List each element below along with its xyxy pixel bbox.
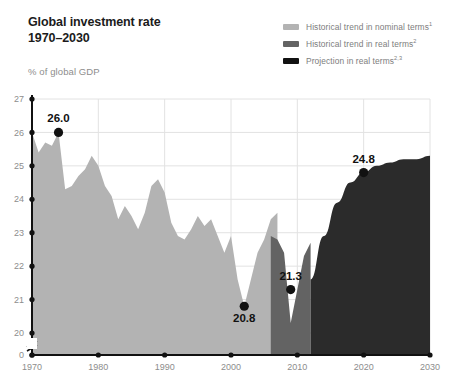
y-tick-label-22: 22 xyxy=(14,261,24,271)
x-tick-label-1980: 1980 xyxy=(88,362,108,372)
x-tick-dot-1970 xyxy=(29,352,34,357)
data-label-21.3: 21.3 xyxy=(280,270,302,282)
x-tick-dot-2000 xyxy=(228,352,233,357)
data-point-26.0 xyxy=(54,128,63,137)
data-point-21.3 xyxy=(286,285,295,294)
x-tick-dot-2030 xyxy=(427,352,432,357)
data-point-20.8 xyxy=(240,302,249,311)
chart-plot-area: 02021222324252627 1970198019902000201020… xyxy=(0,0,450,383)
x-tick-label-2030: 2030 xyxy=(420,362,440,372)
y-tick-label-21: 21 xyxy=(14,295,24,305)
x-tick-dot-1980 xyxy=(96,352,101,357)
y-tick-label-20: 20 xyxy=(14,328,24,338)
y-tick-dot-23 xyxy=(29,230,34,235)
y-tick-dot-25 xyxy=(29,163,34,168)
y-tick-label-23: 23 xyxy=(14,228,24,238)
area-projection xyxy=(311,156,430,355)
data-label-26.0: 26.0 xyxy=(47,112,69,124)
x-tick-label-2010: 2010 xyxy=(287,362,307,372)
x-tick-dot-2020 xyxy=(361,352,366,357)
y-tick-dot-26 xyxy=(29,130,34,135)
area-real xyxy=(271,236,311,355)
data-label-20.8: 20.8 xyxy=(233,312,256,324)
y-tick-label-26: 26 xyxy=(14,128,24,138)
y-tick-dot-20 xyxy=(29,330,34,335)
y-tick-label-25: 25 xyxy=(14,161,24,171)
chart-root: Global investment rate 1970–2030 % of gl… xyxy=(0,0,450,383)
y-tick-dot-22 xyxy=(29,264,34,269)
x-tick-label-2020: 2020 xyxy=(354,362,374,372)
data-point-24.8 xyxy=(359,168,368,177)
y-tick-label-27: 27 xyxy=(14,94,24,104)
x-tick-label-1990: 1990 xyxy=(155,362,175,372)
y-tick-dot-21 xyxy=(29,297,34,302)
x-tick-label-2000: 2000 xyxy=(221,362,241,372)
x-tick-dot-1990 xyxy=(162,352,167,357)
y-tick-dot-24 xyxy=(29,197,34,202)
y-tick-label-24: 24 xyxy=(14,194,24,204)
x-tick-dot-2010 xyxy=(295,352,300,357)
y-tick-label-0: 0 xyxy=(19,350,24,360)
data-label-24.8: 24.8 xyxy=(352,153,375,165)
y-tick-dot-27 xyxy=(29,96,34,101)
x-tick-label-1970: 1970 xyxy=(22,362,42,372)
y-axis-break-mask xyxy=(27,338,37,349)
